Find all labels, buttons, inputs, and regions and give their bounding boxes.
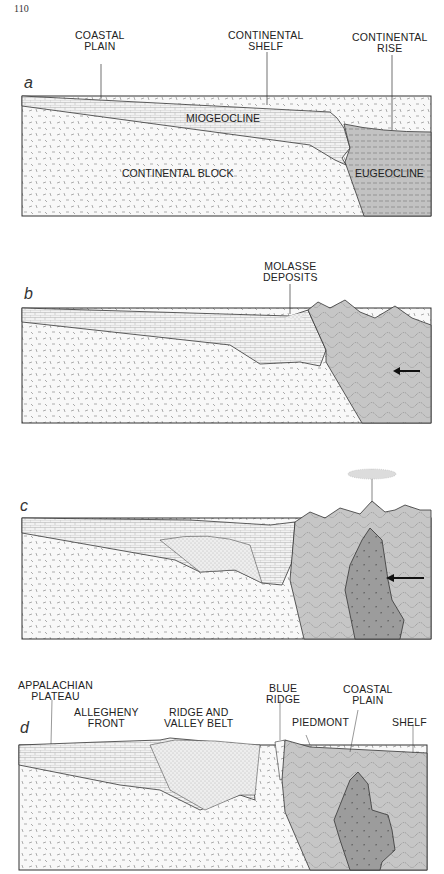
callout-blue-ridge: BLUE RIDGE <box>266 683 300 705</box>
callout-text: PLAIN <box>343 695 393 706</box>
callout-ridge-and-valley-belt: RIDGE AND VALLEY BELT <box>164 707 233 729</box>
callout-text: PLATEAU <box>18 691 93 702</box>
callout-allegheny-front: ALLEGHENY FRONT <box>74 707 139 729</box>
callout-shelf: SHELF <box>392 717 427 728</box>
callout-text: FRONT <box>74 718 139 729</box>
callout-text: DEPOSITS <box>263 272 318 283</box>
panel-a-section: MIOGEOCLINE CONTINENTAL BLOCK EUGEOCLINE <box>22 52 431 216</box>
panel-b-section <box>22 284 431 423</box>
callout-text: RIDGE <box>266 694 300 705</box>
callout-appalachian-plateau: APPALACHIAN PLATEAU <box>18 680 93 702</box>
volcanic-plume-icon <box>348 469 396 479</box>
label-eugeocline: EUGEOCLINE <box>355 167 424 179</box>
callout-coastal-plain-d: COASTAL PLAIN <box>343 684 393 706</box>
callout-text: PIEDMONT <box>292 717 349 728</box>
callout-piedmont: PIEDMONT <box>292 717 349 728</box>
panel-b-label: b <box>24 285 33 303</box>
panel-c-label: c <box>20 497 28 515</box>
callout-molasse-deposits: MOLASSE DEPOSITS <box>263 261 318 283</box>
panel-d-label: d <box>20 719 29 737</box>
callout-text: VALLEY BELT <box>164 718 233 729</box>
label-continental-block: CONTINENTAL BLOCK <box>122 167 233 179</box>
label-miogeocline: MIOGEOCLINE <box>186 112 260 124</box>
geologic-cross-sections: × × MIOGEOCLINE CONTINENTAL BLOCK EUGEOC… <box>0 0 444 874</box>
callout-text: SHELF <box>392 717 427 728</box>
panel-c-section <box>22 469 431 639</box>
